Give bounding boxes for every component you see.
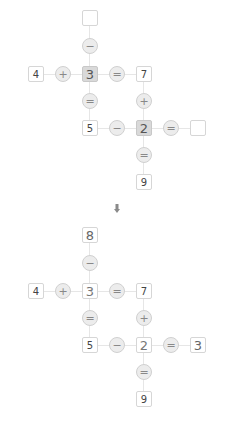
plus-operator: + xyxy=(55,283,71,299)
cell-filled-top[interactable]: 8 xyxy=(82,227,98,243)
cell-given: 4 xyxy=(28,283,44,299)
equals-operator: = xyxy=(82,310,98,326)
cell-empty-top[interactable] xyxy=(82,10,98,26)
equals-operator: = xyxy=(109,66,125,82)
cell-filled-right[interactable]: 3 xyxy=(190,337,206,353)
plus-operator: + xyxy=(136,93,152,109)
puzzle-before: − 4 + 3 = 7 = + 5 − 2 = = 9 xyxy=(0,0,225,200)
plus-operator: + xyxy=(136,310,152,326)
cell-given: 7 xyxy=(136,283,152,299)
minus-operator: − xyxy=(109,337,125,353)
cell-highlighted: 2 xyxy=(136,120,152,136)
puzzle-after: 8 − 4 + 3 = 7 = + 5 − 2 = 3 = 9 xyxy=(0,217,225,417)
equals-operator: = xyxy=(109,283,125,299)
cell-given: 4 xyxy=(28,66,44,82)
equals-operator: = xyxy=(136,364,152,380)
cell-given: 9 xyxy=(136,174,152,190)
plus-operator: + xyxy=(55,66,71,82)
minus-operator: − xyxy=(82,38,98,54)
cell-answer: 2 xyxy=(136,337,152,353)
cell-answer: 3 xyxy=(82,283,98,299)
cell-given: 9 xyxy=(136,391,152,407)
cell-highlighted: 3 xyxy=(82,66,98,82)
cell-given: 7 xyxy=(136,66,152,82)
down-arrow-icon xyxy=(114,204,120,213)
cell-given: 5 xyxy=(82,120,98,136)
equals-operator: = xyxy=(163,337,179,353)
minus-operator: − xyxy=(82,255,98,271)
cell-given: 5 xyxy=(82,337,98,353)
minus-operator: − xyxy=(109,120,125,136)
equals-operator: = xyxy=(82,93,98,109)
equals-operator: = xyxy=(163,120,179,136)
equals-operator: = xyxy=(136,147,152,163)
cell-empty-right[interactable] xyxy=(190,120,206,136)
